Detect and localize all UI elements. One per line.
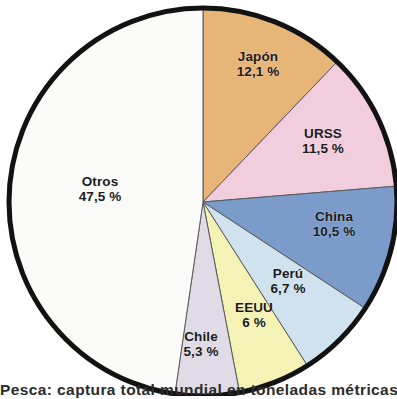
pie-label-name: Otros: [79, 175, 122, 190]
pie-label-name: Perú: [270, 267, 305, 282]
pie-label-urss: URSS11,5 %: [302, 127, 344, 156]
pie-label-name: URSS: [302, 127, 344, 142]
pie-label-value: 12,1 %: [237, 64, 280, 79]
pie-label-jap-n: Japón12,1 %: [237, 50, 280, 79]
pie-label-eeuu: EEUU6 %: [235, 301, 273, 330]
pie-label-name: EEUU: [235, 301, 273, 316]
pie-label-value: 6,7 %: [270, 281, 305, 296]
pie-label-otros: Otros47,5 %: [79, 175, 122, 204]
figure-caption: Pesca: captura total mundial en tonelada…: [0, 381, 397, 399]
pie-label-value: 10,5 %: [313, 224, 356, 239]
pie-label-value: 5,3 %: [183, 344, 218, 359]
pie-label-name: Chile: [183, 330, 218, 345]
pie-label-chile: Chile5,3 %: [183, 330, 218, 359]
pie-label-per-: Perú6,7 %: [270, 267, 305, 296]
pie-label-value: 47,5 %: [79, 189, 122, 204]
pie-label-china: China10,5 %: [313, 210, 356, 239]
pie-label-value: 6 %: [235, 315, 273, 330]
pie-label-name: Japón: [237, 50, 280, 65]
pie-label-name: China: [313, 210, 356, 225]
pie-label-value: 11,5 %: [302, 141, 344, 156]
